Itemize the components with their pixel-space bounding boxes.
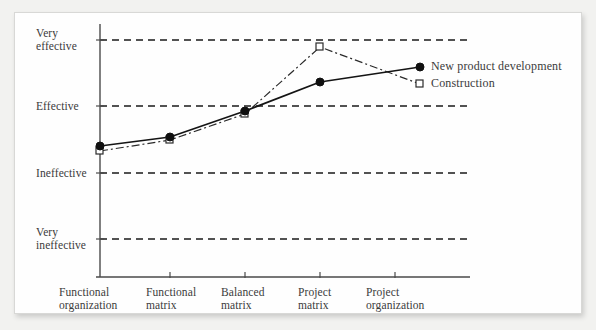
- legend-label-construction: Construction: [431, 77, 495, 90]
- figure-card: [14, 12, 582, 314]
- x-tick-label-balanced-matrix: Balanced matrix: [221, 286, 287, 312]
- legend-label-new-product-development: New product development: [431, 60, 562, 73]
- figure-page: Very effective Effective Ineffective Ver…: [0, 0, 596, 330]
- x-tick-label-project-organization: Project organization: [366, 286, 450, 312]
- x-tick-label-functional-matrix: Functional matrix: [146, 286, 216, 312]
- y-tick-label-very-effective: Very effective: [36, 27, 94, 52]
- y-tick-label-ineffective: Ineffective: [36, 167, 98, 180]
- x-tick-label-project-matrix: Project matrix: [298, 286, 356, 312]
- y-tick-label-effective: Effective: [36, 100, 96, 113]
- x-tick-label-functional-organization: Functional organization: [59, 286, 143, 312]
- y-tick-label-very-ineffective: Very ineffective: [36, 226, 98, 251]
